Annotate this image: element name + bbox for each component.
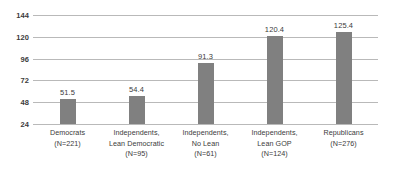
y-axis-tick-label: 72 — [20, 76, 29, 85]
bar-value-label: 91.3 — [198, 52, 213, 61]
bar[interactable] — [129, 96, 145, 124]
x-axis-category-label-line: Republicans — [309, 128, 378, 139]
x-axis-category-label-line: (N=221) — [33, 139, 102, 150]
x-axis-category-label-line: (N=61) — [171, 149, 240, 160]
x-axis-category-label-line: (N=276) — [309, 139, 378, 150]
x-axis-category-labels: Democrats(N=221)Independents,Lean Democr… — [33, 128, 378, 174]
bar-value-label: 125.4 — [334, 21, 353, 30]
gridline — [33, 124, 378, 125]
bar-chart: 24487296120144 51.554.491.3120.4125.4 De… — [0, 0, 399, 178]
x-axis-category-label-line: Independents, — [171, 128, 240, 139]
bar-value-label: 54.4 — [129, 85, 144, 94]
bar-group[interactable]: 51.5 — [33, 15, 102, 124]
y-axis-tick-label: 96 — [20, 54, 29, 63]
x-axis-category-label: Independents,Lean Democratic(N=95) — [102, 128, 171, 160]
bar[interactable] — [198, 63, 214, 124]
x-axis-category-label-line: Democrats — [33, 128, 102, 139]
y-axis-tick-label: 120 — [16, 32, 29, 41]
bar-group[interactable]: 54.4 — [102, 15, 171, 124]
y-axis-tick-label: 24 — [20, 120, 29, 129]
x-axis-category-label-line: No Lean — [171, 139, 240, 150]
x-axis-category-label-line: Independents, — [102, 128, 171, 139]
bar[interactable] — [336, 32, 352, 124]
y-axis-tick-labels: 24487296120144 — [0, 15, 29, 124]
bar-value-label: 120.4 — [265, 25, 284, 34]
bar-group[interactable]: 120.4 — [240, 15, 309, 124]
x-axis-category-label-line: (N=95) — [102, 149, 171, 160]
x-axis-category-label-line: Independents, — [240, 128, 309, 139]
bar-group[interactable]: 91.3 — [171, 15, 240, 124]
bar-group[interactable]: 125.4 — [309, 15, 378, 124]
x-axis-category-label: Independents,Lean GOP(N=124) — [240, 128, 309, 160]
x-axis-category-label: Independents,No Lean(N=61) — [171, 128, 240, 160]
bar[interactable] — [60, 99, 76, 124]
x-axis-category-label: Democrats(N=221) — [33, 128, 102, 149]
x-axis-category-label-line: (N=124) — [240, 149, 309, 160]
x-axis-category-label-line: Lean GOP — [240, 139, 309, 150]
x-axis-category-label: Republicans(N=276) — [309, 128, 378, 149]
bar[interactable] — [267, 36, 283, 124]
y-axis-tick-label: 48 — [20, 98, 29, 107]
plot-area: 51.554.491.3120.4125.4 — [33, 15, 378, 124]
bar-value-label: 51.5 — [60, 88, 75, 97]
y-axis-tick-label: 144 — [16, 11, 29, 20]
x-axis-category-label-line: Lean Democratic — [102, 139, 171, 150]
